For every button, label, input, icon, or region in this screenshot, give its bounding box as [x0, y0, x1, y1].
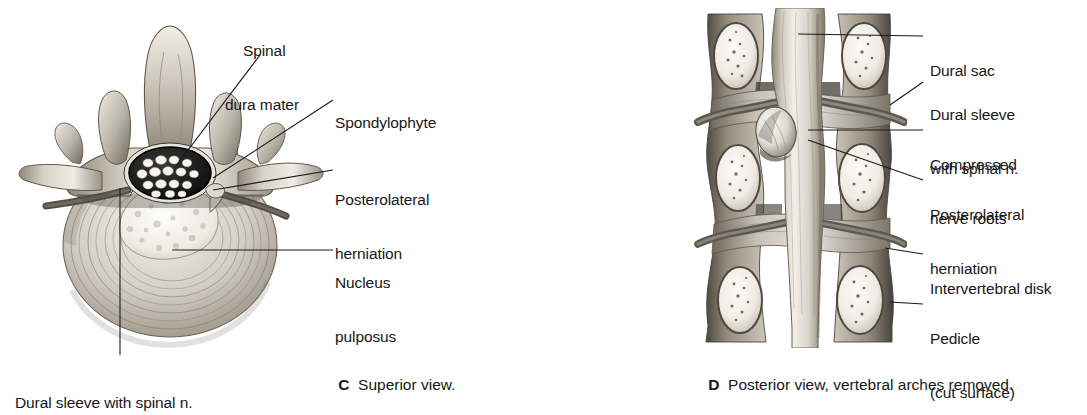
caption-c-letter: C — [338, 376, 349, 393]
spinal-dura-mater-sac — [124, 143, 216, 203]
label-pedicle-line1: Pedicle — [930, 330, 1015, 348]
panel-d-illustration — [692, 8, 907, 348]
dural-sac-shape — [772, 8, 825, 348]
caption-panel-d: D Posterior view, vertebral arches remov… — [691, 358, 1013, 412]
label-spinal-line2: dura mater — [225, 96, 299, 114]
caption-d-spacer — [719, 376, 728, 393]
caption-d-letter: D — [708, 376, 719, 393]
label-spondylophyte-line1: Spondylophyte — [335, 114, 436, 132]
caption-c-text: Superior view. — [358, 376, 455, 393]
label-dural-sleeve-c-text: Dural sleeve with spinal n. — [15, 394, 192, 412]
posterior-view-svg — [692, 8, 907, 348]
label-dural-sleeve-with-spinal-n-c: Dural sleeve with spinal n. — [15, 358, 192, 415]
label-nucleus-line1: Nucleus — [335, 274, 396, 292]
caption-panel-c: C Superior view. — [321, 358, 455, 412]
spondylophyte-shape — [206, 184, 225, 199]
caption-d-text: Posterior view, vertebral arches removed… — [728, 376, 1013, 393]
caption-c-spacer — [349, 376, 358, 393]
label-posterolateral-c-line1: Posterolateral — [335, 191, 429, 209]
label-nucleus-line2: pulposus — [335, 328, 396, 346]
label-spinal-dura-mater: Spinal dura mater — [243, 6, 299, 150]
label-spinal-line1: Spinal — [243, 42, 299, 60]
label-posterolateral-d-line1: Posterolateral — [930, 206, 1024, 224]
